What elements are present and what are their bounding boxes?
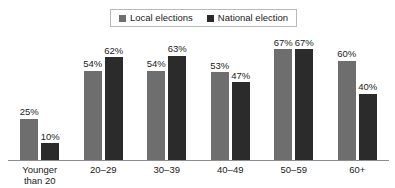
bar-item: 67% <box>274 33 292 160</box>
bar-value-label: 67% <box>295 38 314 48</box>
bar[interactable] <box>338 61 356 160</box>
bar-item: 54% <box>147 33 165 160</box>
bar-item: 10% <box>41 33 59 160</box>
bar-value-label: 40% <box>358 82 377 92</box>
bar-item: 63% <box>168 33 186 160</box>
category-axis-labels: Youngerthan 2020–2930–3940–4950–5960+ <box>8 164 389 186</box>
bar-value-label: 10% <box>41 132 60 142</box>
bar-item: 60% <box>338 33 356 160</box>
bar-value-label: 63% <box>168 44 187 54</box>
bar-value-label: 54% <box>147 59 166 69</box>
bar-value-label: 47% <box>231 71 250 81</box>
bar-item: 40% <box>359 33 377 160</box>
category-label-line: 30–39 <box>135 164 199 175</box>
category-label: 40–49 <box>199 164 263 186</box>
bar[interactable] <box>20 119 38 160</box>
legend-item-national-election: National election <box>207 13 288 23</box>
category-label-line: 20–29 <box>72 164 136 175</box>
bar[interactable] <box>84 71 102 161</box>
bar[interactable] <box>168 56 186 160</box>
category-label-line: Younger <box>8 164 72 175</box>
bar-value-label: 60% <box>337 49 356 59</box>
bar-group: 25%10% <box>8 33 72 160</box>
legend-label-local-elections: Local elections <box>130 13 193 23</box>
bar[interactable] <box>295 49 313 160</box>
bar-value-label: 25% <box>20 107 39 117</box>
bar-value-label: 67% <box>274 38 293 48</box>
bar-group: 54%63% <box>135 33 199 160</box>
bar-item: 62% <box>105 33 123 160</box>
x-axis-baseline <box>8 160 389 161</box>
legend-item-local-elections: Local elections <box>119 13 193 23</box>
bar[interactable] <box>105 57 123 160</box>
bar-groups: 25%10%54%62%54%63%53%47%67%67%60%40% <box>8 33 389 160</box>
legend-label-national-election: National election <box>218 13 288 23</box>
bar[interactable] <box>274 49 292 160</box>
category-label: Youngerthan 20 <box>8 164 72 186</box>
bar[interactable] <box>359 94 377 160</box>
plot-area: 25%10%54%62%54%63%53%47%67%67%60%40% <box>0 33 395 161</box>
bar-item: 47% <box>232 33 250 160</box>
category-label-line: than 20 <box>8 175 72 186</box>
bar[interactable] <box>41 143 59 160</box>
bar-item: 67% <box>295 33 313 160</box>
category-label: 50–59 <box>262 164 326 186</box>
bar-item: 25% <box>20 33 38 160</box>
bar[interactable] <box>147 71 165 161</box>
category-label: 20–29 <box>72 164 136 186</box>
category-label-line: 60+ <box>326 164 390 175</box>
grouped-bar-chart: Local elections National election 25%10%… <box>0 0 395 188</box>
bar-group: 53%47% <box>199 33 263 160</box>
bar-value-label: 53% <box>210 61 229 71</box>
bar-value-label: 62% <box>104 46 123 56</box>
legend-swatch-icon-local-elections <box>119 15 126 22</box>
legend-swatch-icon-national-election <box>207 15 214 22</box>
bar[interactable] <box>211 72 229 160</box>
category-label: 30–39 <box>135 164 199 186</box>
bar-item: 53% <box>211 33 229 160</box>
bar-value-label: 54% <box>83 59 102 69</box>
bar-item: 54% <box>84 33 102 160</box>
bar-group: 60%40% <box>326 33 390 160</box>
category-label-line: 40–49 <box>199 164 263 175</box>
chart-legend: Local elections National election <box>110 9 297 27</box>
category-label-line: 50–59 <box>262 164 326 175</box>
bar-group: 54%62% <box>72 33 136 160</box>
bar-group: 67%67% <box>262 33 326 160</box>
category-label: 60+ <box>326 164 390 186</box>
bar[interactable] <box>232 82 250 160</box>
